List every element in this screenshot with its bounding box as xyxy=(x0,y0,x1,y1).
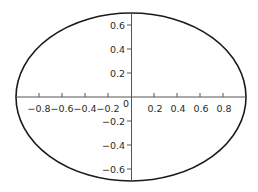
y-tick-label: −0.4 xyxy=(102,140,125,151)
y-tick-label: 0.2 xyxy=(110,68,125,79)
x-tick-label: −0.8 xyxy=(27,103,50,114)
y-tick-label: −0.6 xyxy=(102,164,125,175)
x-tick-labels: −0.8 −0.6 −0.4 −0.2 0.2 0.4 0.6 0.8 xyxy=(27,103,231,114)
x-tick-label: 0.8 xyxy=(216,103,231,114)
ellipse-chart: −0.8 −0.6 −0.4 −0.2 0.2 0.4 0.6 0.8 0 0.… xyxy=(0,0,258,192)
y-tick-label: −0.2 xyxy=(102,116,125,127)
x-tick-label: 0.6 xyxy=(193,103,208,114)
x-tick-label: −0.6 xyxy=(50,103,73,114)
x-tick-label: −0.4 xyxy=(73,103,96,114)
x-tick-label: 0.4 xyxy=(170,103,185,114)
y-tick-label: 0.6 xyxy=(110,20,125,31)
origin-label: 0 xyxy=(123,98,129,109)
y-tick-label: 0.4 xyxy=(110,44,125,55)
x-tick-label: −0.2 xyxy=(96,103,119,114)
x-tick-label: 0.2 xyxy=(147,103,162,114)
